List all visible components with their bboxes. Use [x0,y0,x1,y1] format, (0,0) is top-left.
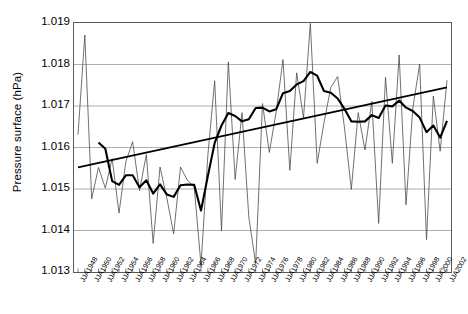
series-annual-line [78,23,447,265]
y-axis-tick-label: 1.017 [18,98,70,110]
x-axis-tick-labels: JJA1948JJA1950JJA1952JJA1954JJA1956JJA19… [73,273,453,314]
y-axis-tick-label: 1.013 [18,264,70,276]
y-axis-tick-label: 1.019 [18,15,70,27]
y-axis-tick-label: 1.016 [18,140,70,152]
y-axis-tick-label: 1.018 [18,57,70,69]
series-smoothed-line [99,72,448,211]
y-axis-tick-labels: 1.0191.0181.0171.0161.0151.0141.013 [14,0,70,285]
plot-area [73,22,452,273]
y-axis-tick-label: 1.015 [18,181,70,193]
y-axis-tick-label: 1.014 [18,223,70,235]
plot-svg [74,23,451,272]
